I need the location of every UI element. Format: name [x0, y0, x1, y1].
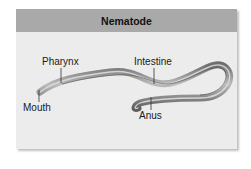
label-intestine: Intestine — [134, 56, 172, 67]
label-pharynx: Pharynx — [42, 56, 79, 67]
worm-body — [40, 65, 230, 109]
label-anus: Anus — [139, 110, 162, 121]
label-mouth: Mouth — [23, 102, 51, 113]
nematode-illustration — [0, 0, 251, 169]
